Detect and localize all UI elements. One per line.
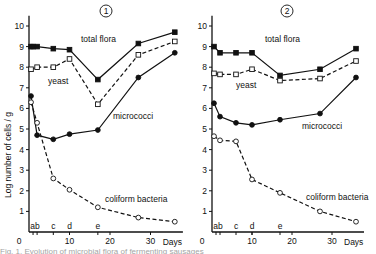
series-line-yeast xyxy=(214,61,356,81)
y-tick-label: 10 xyxy=(15,21,25,31)
y-tick-label: 4 xyxy=(202,145,207,155)
data-point xyxy=(67,132,72,137)
x-tick-label: 10 xyxy=(65,236,75,246)
x-tick-label: 20 xyxy=(105,236,115,246)
data-point xyxy=(234,120,239,125)
data-point xyxy=(173,39,178,44)
series-label-coliform: coliform bacteria xyxy=(306,192,369,202)
data-point xyxy=(250,67,255,72)
data-point xyxy=(172,219,177,224)
stage-marker-c: c xyxy=(234,221,239,231)
data-point xyxy=(234,72,239,77)
panel-number: 1 xyxy=(104,6,109,16)
stage-marker-e: e xyxy=(278,221,283,231)
data-point xyxy=(172,50,177,55)
data-point xyxy=(35,120,40,125)
data-point xyxy=(136,41,141,46)
x-tick-label: 30 xyxy=(146,236,156,246)
data-point xyxy=(278,117,283,122)
series-label-yeast: yeast xyxy=(236,80,257,90)
x-tick-label: 10 xyxy=(247,236,257,246)
data-point xyxy=(218,138,223,143)
data-point xyxy=(67,57,72,62)
y-tick-label: 6 xyxy=(202,103,207,113)
panel-number: 2 xyxy=(285,6,290,16)
data-point xyxy=(318,111,323,116)
data-point xyxy=(51,137,56,142)
y-tick-label: 1 xyxy=(202,206,207,216)
y-tick-label: 3 xyxy=(202,165,207,175)
series-label-micrococci: micrococci xyxy=(302,121,342,131)
data-point xyxy=(212,44,217,49)
y-tick-label: 9 xyxy=(202,42,207,52)
y-tick-label: 8 xyxy=(202,62,207,72)
x-tick-label: 30 xyxy=(327,236,337,246)
data-point xyxy=(35,65,40,70)
data-point xyxy=(29,94,34,99)
y-tick-label: 4 xyxy=(19,145,24,155)
stage-marker-d: d xyxy=(67,221,72,231)
figure: 123456789100102030Daysabcde1total floray… xyxy=(0,0,376,254)
data-point xyxy=(96,77,101,82)
y-tick-label: 7 xyxy=(19,83,24,93)
data-point xyxy=(218,72,223,77)
y-tick-label: 5 xyxy=(202,124,207,134)
series-label-coliform: coliform bacteria xyxy=(105,194,168,204)
series-line-coliform-bacteria xyxy=(214,136,356,221)
y-tick-label: 3 xyxy=(19,165,24,175)
series-label-micrococci: micrococci xyxy=(113,111,153,121)
stage-marker-d: d xyxy=(250,221,255,231)
data-point xyxy=(250,122,255,127)
data-point xyxy=(250,177,255,182)
y-tick-label: 1 xyxy=(19,206,24,216)
y-tick-label: 7 xyxy=(202,83,207,93)
data-point xyxy=(234,50,239,55)
series-label-yeast: yeast xyxy=(48,76,69,86)
data-point xyxy=(354,46,359,51)
x-axis-label: Days xyxy=(344,237,363,247)
x-tick-label: 0 xyxy=(200,236,205,246)
data-point xyxy=(318,67,323,72)
data-point xyxy=(318,209,323,214)
chart-panel-2: 123456789100102030Daysabcde2total floray… xyxy=(198,5,369,247)
stage-marker-ab: ab xyxy=(30,221,40,231)
data-point xyxy=(29,100,34,105)
data-point xyxy=(354,219,359,224)
y-tick-label: 2 xyxy=(202,186,207,196)
data-point xyxy=(354,59,359,64)
data-point xyxy=(136,215,141,220)
y-axis-label: Log number of cells / g xyxy=(3,112,13,198)
chart-panel-1: 123456789100102030Daysabcde1total floray… xyxy=(15,5,183,247)
data-point xyxy=(51,65,56,70)
x-tick-label: 0 xyxy=(17,236,22,246)
data-point xyxy=(212,101,217,106)
data-point xyxy=(67,47,72,52)
data-point xyxy=(51,46,56,51)
data-point xyxy=(95,205,100,210)
x-axis-label: Days xyxy=(163,237,182,247)
data-point xyxy=(250,50,255,55)
data-point xyxy=(35,44,40,49)
data-point xyxy=(29,67,34,72)
stage-marker-ab: ab xyxy=(213,221,223,231)
data-point xyxy=(136,53,141,58)
series-label-total_flora: total flora xyxy=(265,34,300,44)
y-tick-label: 5 xyxy=(19,124,24,134)
figure-caption: Fig. 1. Evolution of microbial flora of … xyxy=(0,247,376,254)
data-point xyxy=(354,75,359,80)
data-point xyxy=(212,71,217,76)
data-point xyxy=(234,139,239,144)
data-point xyxy=(95,128,100,133)
data-point xyxy=(35,133,40,138)
data-point xyxy=(278,73,283,78)
data-point xyxy=(67,187,72,192)
data-point xyxy=(318,76,323,81)
data-point xyxy=(96,102,101,107)
y-tick-label: 9 xyxy=(19,42,24,52)
y-tick-label: 2 xyxy=(19,186,24,196)
data-point xyxy=(218,114,223,119)
stage-marker-e: e xyxy=(95,221,100,231)
series-label-total_flora: total flora xyxy=(81,34,116,44)
data-point xyxy=(278,78,283,83)
data-point xyxy=(218,50,223,55)
